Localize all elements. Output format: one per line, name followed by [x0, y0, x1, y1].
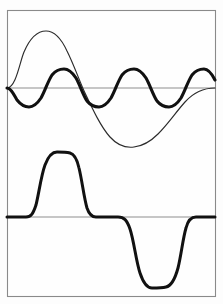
- figure-frame: [8, 11, 216, 297]
- figure-root: Waveform comparison figure Superimposed …: [0, 0, 223, 304]
- waveform-figure-svg: [0, 0, 223, 304]
